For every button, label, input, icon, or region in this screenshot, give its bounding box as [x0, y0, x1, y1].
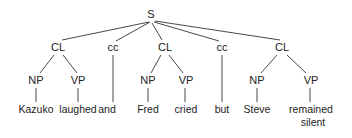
tree-edge — [116, 22, 150, 41]
leaf-word: silent — [301, 116, 326, 128]
leaf-word: Kazuko — [18, 103, 53, 115]
leaf-word: and — [98, 103, 116, 115]
tree-node-cc1: cc — [108, 41, 120, 53]
tree-edge — [62, 22, 149, 40]
tree-edge — [63, 55, 77, 73]
tree-node-vp3: VP — [304, 74, 319, 86]
leaf-word: remained — [289, 103, 333, 115]
tree-node-vp1: VP — [71, 74, 86, 86]
tree-node-cl1: CL — [51, 41, 65, 53]
leaf-word: laughed — [59, 103, 97, 115]
leaf-word: Fred — [137, 103, 159, 115]
tree-leaves: KazukolaughedandFredcriedbutSteveremaine… — [18, 103, 333, 128]
tree-node-np3: NP — [249, 74, 264, 86]
tree-node-cl3: CL — [275, 41, 289, 53]
tree-edge — [152, 23, 162, 40]
tree-edge — [287, 55, 306, 73]
tree-node-np2: NP — [140, 74, 155, 86]
tree-edge — [151, 55, 161, 73]
tree-nodes: SCLccCLccCLNPVPNPVPNPVP — [28, 8, 318, 86]
tree-edge — [261, 55, 277, 73]
tree-edge — [154, 22, 219, 41]
leaf-word: cried — [175, 103, 198, 115]
tree-edge — [40, 55, 54, 73]
tree-edges — [36, 21, 310, 102]
tree-node-s: S — [147, 8, 154, 20]
tree-node-cl2: CL — [158, 41, 172, 53]
tree-node-cc2: cc — [217, 41, 229, 53]
tree-edge — [155, 21, 280, 40]
leaf-word: Steve — [244, 103, 271, 115]
tree-node-vp2: VP — [179, 74, 194, 86]
tree-edge — [169, 55, 183, 73]
leaf-word: but — [215, 103, 230, 115]
tree-node-np1: NP — [28, 74, 43, 86]
syntax-tree-diagram: SCLccCLccCLNPVPNPVPNPVP Kazukolaughedand… — [0, 0, 352, 138]
